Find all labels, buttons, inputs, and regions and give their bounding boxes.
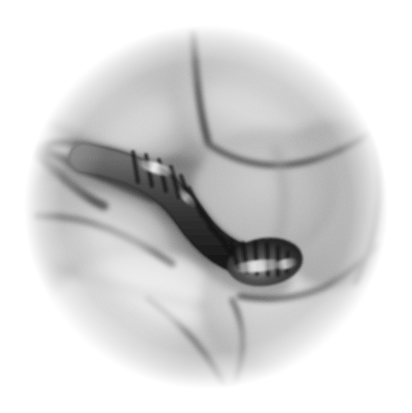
endoscopic-figure [0,0,412,413]
field-of-view [0,0,412,413]
film-grain [0,0,412,413]
endoscopic-image-canvas [0,0,412,413]
